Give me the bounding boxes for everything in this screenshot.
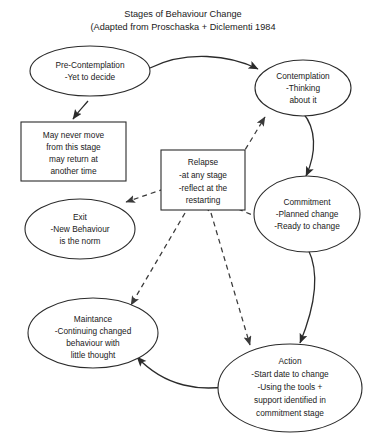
pre-contemplation-line-2: -Yet to decide	[65, 72, 116, 82]
edge-commitment-to-action	[300, 249, 315, 343]
edge-relapse-to-action	[211, 213, 250, 345]
commitment-line-1: Commitment	[283, 197, 331, 207]
contemplation-line-2: -Thinking	[286, 83, 321, 93]
may-never-move-line-3: may return at	[49, 154, 99, 164]
node-may-never-move[interactable]: May never move from this stage may retur…	[21, 122, 126, 181]
pre-contemplation-ellipse	[30, 46, 150, 96]
maintance-line-3: behaviour with	[66, 338, 120, 348]
edge-pre-contemplation-to-contemplation	[150, 56, 258, 69]
node-maintance[interactable]: Maintance -Continuing changed behaviour …	[28, 298, 158, 368]
edge-contemplation-to-commitment	[303, 113, 314, 176]
edge-relapse-to-exit	[126, 189, 164, 202]
contemplation-line-1: Contemplation	[276, 71, 330, 81]
node-pre-contemplation[interactable]: Pre-Contemplation -Yet to decide	[30, 46, 150, 96]
diagram-header: Stages of Behaviour Change (Adapted from…	[90, 9, 275, 32]
edge-relapse-to-maintance	[131, 213, 185, 305]
exit-line-1: Exit	[73, 212, 88, 222]
node-contemplation[interactable]: Contemplation -Thinking about it	[255, 60, 351, 116]
action-line-4: support identified in	[254, 395, 326, 405]
pre-contemplation-line-1: Pre-Contemplation	[55, 60, 125, 70]
relapse-line-3: -reflect at the	[179, 183, 228, 193]
maintance-line-4: little thought	[71, 350, 116, 360]
commitment-line-2: -Planned change	[276, 209, 339, 219]
node-action[interactable]: Action -Start date to change -Using the …	[218, 344, 362, 432]
node-commitment[interactable]: Commitment -Planned change -Ready to cha…	[254, 176, 360, 252]
exit-line-3: is the norm	[59, 236, 100, 246]
page-title: Stages of Behaviour Change	[124, 9, 241, 19]
exit-line-2: -New Behaviour	[50, 224, 109, 234]
may-never-move-line-4: another time	[50, 166, 97, 176]
edge-pre-contemplation-to-may-never-move	[73, 101, 88, 119]
action-line-1: Action	[278, 356, 301, 366]
maintance-line-1: Maintance	[74, 314, 113, 324]
behaviour-change-diagram: Stages of Behaviour Change (Adapted from…	[0, 0, 367, 448]
may-never-move-line-2: from this stage	[46, 142, 101, 152]
maintance-line-2: -Continuing changed	[55, 326, 132, 336]
relapse-line-2: -at any stage	[179, 170, 227, 180]
relapse-line-1: Relapse	[188, 157, 219, 167]
node-exit[interactable]: Exit -New Behaviour is the norm	[25, 199, 135, 259]
page-subtitle: (Adapted from Proschaska + Diclementi 19…	[90, 22, 275, 32]
action-line-2: -Start date to change	[251, 369, 329, 379]
contemplation-line-3: about it	[289, 95, 317, 105]
action-line-3: -Using the tools +	[258, 382, 323, 392]
action-line-5: commitment stage	[256, 408, 324, 418]
relapse-line-4: restarting	[186, 195, 221, 205]
commitment-line-3: -Ready to change	[274, 221, 340, 231]
may-never-move-line-1: May never move	[43, 130, 105, 140]
node-relapse[interactable]: Relapse -at any stage -reflect at the re…	[161, 150, 245, 210]
